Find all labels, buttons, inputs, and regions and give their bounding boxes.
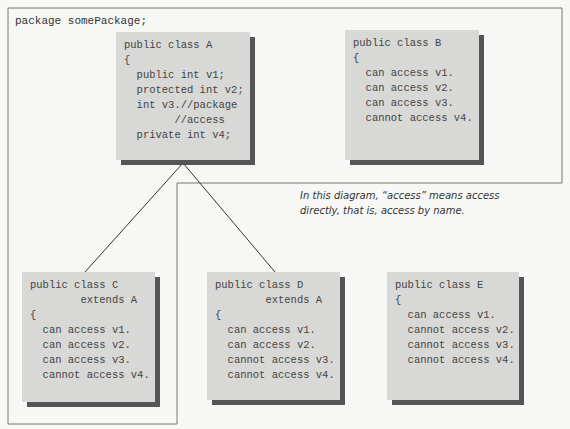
code-line: can access v1. [30, 323, 147, 338]
code-line: public class D [215, 278, 332, 293]
code-line: { [395, 293, 511, 308]
code-line: public int v1; [124, 68, 242, 83]
code-line: { [124, 53, 242, 68]
class-a-box: public class A{ public int v1; protected… [116, 32, 250, 160]
code-line: public class B [353, 36, 471, 51]
code-line: //access [124, 113, 242, 128]
code-line: can access v2. [30, 338, 147, 353]
code-line: can access v1. [395, 308, 511, 323]
code-line: can access v1. [353, 66, 471, 81]
note-line: directly, that is, access by name. [300, 203, 560, 218]
class-c-box: public class C extends A{ can access v1.… [22, 272, 155, 402]
code-line: extends A [215, 293, 332, 308]
code-line: extends A [30, 293, 147, 308]
code-line: public class A [124, 38, 242, 53]
access-note: In this diagram, “access” means access d… [300, 188, 560, 218]
code-line: cannot access v3. [395, 338, 511, 353]
code-line: { [30, 308, 147, 323]
note-line: In this diagram, “access” means access [300, 188, 560, 203]
class-e-box: public class E{ can access v1. cannot ac… [387, 272, 519, 400]
code-line: cannot access v4. [395, 353, 511, 368]
code-line: cannot access v4. [30, 368, 147, 383]
inheritance-line-d [183, 163, 275, 272]
package-label: package somePackage; [15, 15, 147, 27]
code-line: cannot access v4. [215, 368, 332, 383]
class-d-box: public class D extends A{ can access v1.… [207, 272, 340, 400]
code-line: private int v4; [124, 128, 242, 143]
code-line: { [215, 308, 332, 323]
code-line: protected int v2; [124, 83, 242, 98]
code-line: can access v2. [215, 338, 332, 353]
code-line: can access v3. [30, 353, 147, 368]
code-line: cannot access v2. [395, 323, 511, 338]
code-line: can access v2. [353, 81, 471, 96]
code-line: int v3.//package [124, 98, 242, 113]
code-line: can access v3. [353, 96, 471, 111]
code-line: { [353, 51, 471, 66]
code-line: can access v1. [215, 323, 332, 338]
code-line: public class C [30, 278, 147, 293]
class-b-box: public class B{ can access v1. can acces… [345, 30, 479, 160]
code-line: cannot access v4. [353, 111, 471, 126]
code-line: cannot access v3. [215, 353, 332, 368]
inheritance-line-c [85, 163, 183, 272]
code-line: public class E [395, 278, 511, 293]
